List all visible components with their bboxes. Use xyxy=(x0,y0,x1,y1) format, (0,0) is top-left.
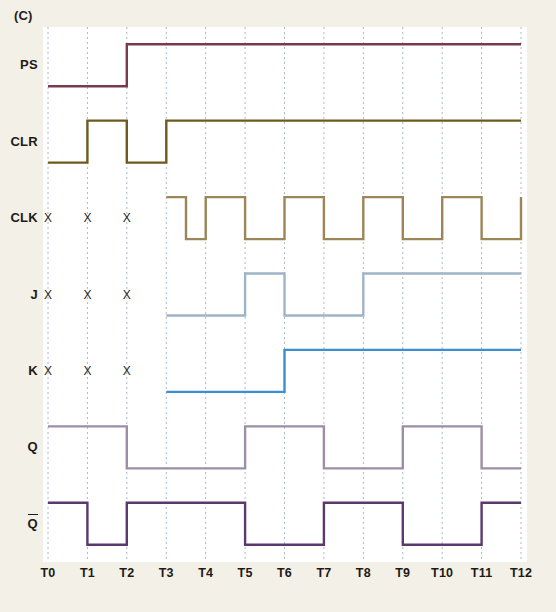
waveform-clk xyxy=(166,197,521,239)
undefined-x-marker: X xyxy=(83,211,91,225)
undefined-x-marker: X xyxy=(123,364,131,378)
signal-label-qbar: Q xyxy=(0,516,38,531)
time-tick-label: T4 xyxy=(198,566,213,580)
signal-label-j: J xyxy=(0,287,38,302)
signal-label-ps: PS xyxy=(0,57,38,72)
undefined-x-marker: X xyxy=(83,288,91,302)
signal-label-clk: CLK xyxy=(0,210,38,225)
waveform-plot-area: XXXXXXXXX xyxy=(43,27,527,562)
signal-label-text: Q xyxy=(28,516,38,531)
undefined-x-marker: X xyxy=(123,288,131,302)
time-tick-label: T6 xyxy=(277,566,292,580)
waveform-clr xyxy=(48,121,521,163)
undefined-x-marker: X xyxy=(44,364,52,378)
waveform-traces xyxy=(43,27,527,562)
waveform-q xyxy=(48,426,521,468)
overline-bar xyxy=(28,514,38,515)
time-tick-label: T8 xyxy=(356,566,371,580)
undefined-x-marker: X xyxy=(44,211,52,225)
time-tick-label: T1 xyxy=(80,566,95,580)
time-tick-label: T10 xyxy=(431,566,453,580)
time-tick-label: T0 xyxy=(41,566,56,580)
waveform-qbar xyxy=(48,503,521,545)
timing-diagram-figure: (C) XXXXXXXXX PSCLRCLKJKQQ T0T1T2T3T4T5T… xyxy=(0,0,556,612)
time-axis: T0T1T2T3T4T5T6T7T8T9T10T11T12 xyxy=(43,566,527,588)
time-tick-label: T7 xyxy=(316,566,331,580)
undefined-x-marker: X xyxy=(123,211,131,225)
signal-label-k: K xyxy=(0,363,38,378)
time-tick-label: T11 xyxy=(471,566,492,580)
signal-label-clr: CLR xyxy=(0,134,38,149)
undefined-x-marker: X xyxy=(44,288,52,302)
time-tick-label: T2 xyxy=(119,566,134,580)
waveform-ps xyxy=(48,44,521,86)
undefined-x-marker: X xyxy=(83,364,91,378)
time-tick-label: T12 xyxy=(510,566,532,580)
signal-label-q: Q xyxy=(0,439,38,454)
time-tick-label: T9 xyxy=(395,566,410,580)
waveform-j xyxy=(166,274,521,316)
panel-label: (C) xyxy=(14,8,33,23)
time-tick-label: T3 xyxy=(159,566,174,580)
waveform-k xyxy=(166,350,521,392)
time-tick-label: T5 xyxy=(238,566,253,580)
overline-wrapper: Q xyxy=(28,516,38,531)
